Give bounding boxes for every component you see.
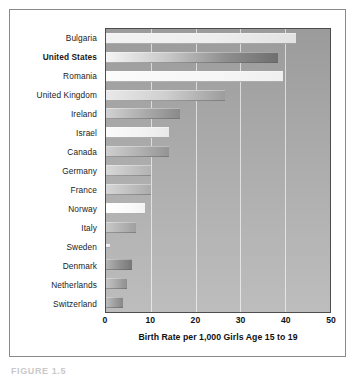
bar-row	[106, 161, 330, 180]
bar-row	[106, 86, 330, 105]
category-label: Netherlands	[10, 275, 102, 294]
bar-row	[106, 123, 330, 142]
category-label: France	[10, 180, 102, 199]
category-label: Denmark	[10, 256, 102, 275]
category-label: United States	[10, 47, 102, 66]
bar	[106, 146, 169, 157]
bar	[106, 71, 283, 82]
bar-row	[106, 293, 330, 312]
x-tick-label: 0	[103, 315, 108, 325]
category-axis-labels: BulgariaUnited StatesRomaniaUnited Kingd…	[10, 28, 102, 313]
bar	[106, 165, 151, 176]
bar-row	[106, 199, 330, 218]
bar-chart: BulgariaUnited StatesRomaniaUnited Kingd…	[10, 10, 347, 358]
category-label: Italy	[10, 218, 102, 237]
bar-row	[106, 180, 330, 199]
bar-row	[106, 104, 330, 123]
category-label: Canada	[10, 142, 102, 161]
category-label: Norway	[10, 199, 102, 218]
x-tick-label: 30	[236, 315, 246, 325]
bar	[106, 244, 110, 248]
bar-row	[106, 29, 330, 48]
x-tick-label: 10	[145, 315, 155, 325]
bar-row	[106, 48, 330, 67]
bar	[106, 127, 169, 138]
bar	[106, 278, 127, 289]
bar	[106, 259, 132, 270]
bar-row	[106, 142, 330, 161]
x-axis-title: Birth Rate per 1,000 Girls Age 15 to 19	[105, 332, 331, 342]
category-label: Romania	[10, 66, 102, 85]
category-label: United Kingdom	[10, 85, 102, 104]
figure-frame: BulgariaUnited StatesRomaniaUnited Kingd…	[9, 9, 346, 357]
category-label: Bulgaria	[10, 28, 102, 47]
plot-area	[105, 28, 331, 313]
value-axis-ticks: 01020304050	[105, 313, 331, 329]
bar-row	[106, 274, 330, 293]
figure-caption: FIGURE 1.5	[11, 366, 66, 376]
bar	[106, 33, 296, 44]
bar	[106, 297, 123, 308]
category-label: Switzerland	[10, 294, 102, 313]
bar	[106, 52, 278, 63]
category-label: Sweden	[10, 237, 102, 256]
bar	[106, 222, 136, 233]
bar-row	[106, 218, 330, 237]
bar-row	[106, 236, 330, 255]
category-label: Germany	[10, 161, 102, 180]
bar-row	[106, 67, 330, 86]
category-label: Israel	[10, 123, 102, 142]
bar	[106, 90, 225, 101]
x-tick-label: 20	[191, 315, 201, 325]
x-tick-label: 50	[326, 315, 336, 325]
bar	[106, 108, 180, 119]
category-label: Ireland	[10, 104, 102, 123]
bar-series	[106, 29, 330, 312]
bar-row	[106, 255, 330, 274]
x-tick-label: 40	[281, 315, 291, 325]
bar	[106, 203, 145, 214]
bar	[106, 184, 151, 195]
